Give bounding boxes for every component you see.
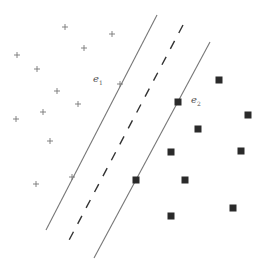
svm-diagram: e1 e2 [0,0,263,268]
square-marker [238,148,245,155]
diagram-canvas [0,0,263,268]
plus-marker [40,109,46,115]
left-margin-line [46,15,157,230]
plus-marker [62,24,68,30]
label-e2: e2 [191,95,201,107]
plus-marker [81,45,87,51]
decision-boundary-line [67,25,183,244]
plus-marker [33,181,39,187]
square-marker [168,149,175,156]
square-marker [133,177,140,184]
square-marker [245,112,252,119]
square-marker [175,99,182,106]
plus-marker [13,116,19,122]
plus-marker [47,138,53,144]
plus-marker [75,101,81,107]
square-marker [195,126,202,133]
plus-marker [109,31,115,37]
square-marker [182,177,189,184]
square-marker [168,213,175,220]
plus-marker [14,52,20,58]
square-marker [216,77,223,84]
right-margin-line [94,42,210,258]
square-marker [230,205,237,212]
plus-marker [34,66,40,72]
label-e1: e1 [93,74,103,86]
plus-marker [54,88,60,94]
